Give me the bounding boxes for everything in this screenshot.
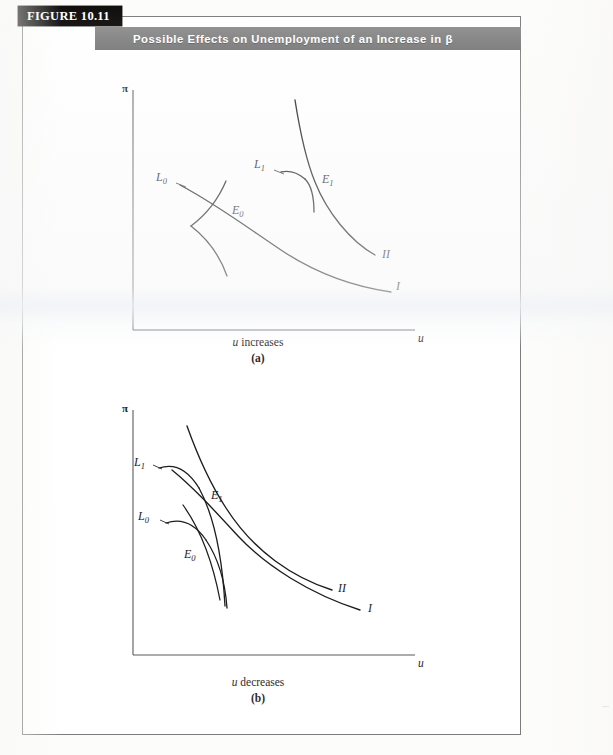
panel-b-x-axis-label: u [418,657,424,669]
panel-a-label-L0: L0 [155,170,168,186]
panel-a-L0-leader [176,183,186,187]
figure-title-bar: Possible Effects on Unemployment of an I… [95,27,521,50]
panel-a-curve-L0-lower [191,226,227,276]
panel-a-curve-L1-upper [281,171,305,179]
panel-a-label-curve-I: I [395,279,401,293]
panel-a-curve-L1-lower [305,179,314,212]
panel-a-label-E0: E0 [231,203,244,219]
panel-b-y-axis-label: π [122,402,128,414]
figure-number-label: FIGURE 10.11 [27,9,110,24]
panel-b-svg: π u L1 L0 E1 E0 I II [108,400,438,670]
panel-a-sublabel: (a) [163,352,353,364]
panel-b-label-curve-I: I [367,601,373,615]
panel-b-chart: π u L1 L0 E1 E0 I II [108,400,438,670]
panel-b-label-curve-II: II [337,581,347,595]
panel-b-caption: u decreases [163,676,353,688]
panel-b-curve-L1-upper [159,466,199,488]
figure-number-badge: FIGURE 10.11 [18,6,122,26]
panel-b-sublabel: (b) [163,692,353,704]
panel-b-curve-II [187,426,332,590]
panel-a-curve-II [295,100,375,255]
panel-a-curve-I [180,185,391,292]
figure-title: Possible Effects on Unemployment of an I… [95,33,453,45]
panel-b-curve-L0-upper [166,521,206,540]
panel-b-label-E0: E0 [183,547,196,563]
panel-a-x-axis-label: u [418,332,424,344]
panel-a-chart: π u L0 L1 E0 E1 I II [108,78,438,358]
panel-b-caption-text: decreases [237,676,284,688]
panel-a-label-curve-II: II [381,247,391,261]
panel-b-label-E1: E1 [210,488,223,504]
page-edge-mark [602,706,609,707]
panel-a-curve-L0-upper [191,181,226,226]
panel-a-label-L1: L1 [253,157,265,173]
panel-b-label-L0: L0 [137,509,150,525]
panel-b-label-L1: L1 [133,455,145,471]
panel-a-caption-text: increases [238,336,283,348]
panel-b-curve-L1-lower [199,488,225,606]
panel-a-caption: u increases [163,336,353,348]
panel-a-y-axis-label: π [122,82,128,94]
panel-a-label-E1: E1 [321,172,334,188]
panel-a-svg: π u L0 L1 E0 E1 I II [108,78,438,358]
